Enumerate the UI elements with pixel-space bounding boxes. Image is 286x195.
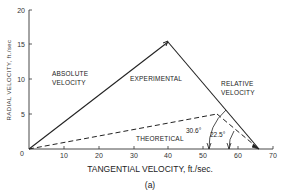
figure-caption: (a): [145, 180, 156, 190]
y-ticks: [29, 10, 32, 114]
y-tick-label-15: 15: [17, 41, 25, 48]
x-tick-label-20: 20: [95, 152, 103, 159]
label-absolute-velocity-2: VELOCITY: [52, 79, 86, 86]
label-relative-velocity-2: VELOCITY: [221, 89, 255, 96]
angle-label-experimental: 30.6°: [186, 127, 202, 134]
x-axis-title: TANGENTIAL VELOCITY, ft./sec.: [87, 164, 213, 174]
x-tick-label-60: 60: [234, 152, 242, 159]
velocity-diagram: 0 5 10 15 20 10 20 30 40 50 60 70 TANGEN…: [0, 0, 286, 195]
label-experimental: EXPERIMENTAL: [130, 75, 182, 82]
x-tick-label-70: 70: [269, 152, 277, 159]
angle-arc-experimental: [209, 110, 226, 149]
label-relative-velocity-1: RELATIVE: [221, 80, 254, 87]
label-absolute-velocity-1: ABSOLUTE: [52, 70, 89, 77]
experimental-absolute-velocity-line: [29, 42, 168, 149]
y-tick-label-10: 10: [17, 76, 25, 83]
angle-label-theoretical: 22.5°: [210, 131, 226, 138]
x-tick-label-50: 50: [199, 152, 207, 159]
x-tick-label-10: 10: [60, 152, 68, 159]
label-theoretical: THEORETICAL: [136, 135, 184, 142]
x-tick-label-40: 40: [164, 152, 172, 159]
y-tick-label-20: 20: [17, 7, 25, 14]
y-axis-title: RADIAL VELOCITY, ft./sec: [6, 40, 12, 121]
y-tick-label-5: 5: [21, 111, 25, 118]
x-tick-label-0: 0: [20, 150, 24, 157]
x-tick-label-30: 30: [130, 152, 138, 159]
